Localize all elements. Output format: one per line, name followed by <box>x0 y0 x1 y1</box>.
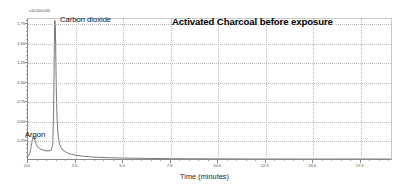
x-axis-minor-tick <box>56 160 57 161</box>
annotation-argon: Argon <box>25 130 45 139</box>
x-axis-title: Time (minutes) <box>0 172 409 181</box>
x-axis-minor-tick <box>151 160 152 161</box>
gridline-vertical <box>361 19 362 159</box>
x-axis-minor-tick <box>37 160 38 161</box>
x-axis-minor-tick <box>341 160 342 161</box>
chromatogram-trace <box>28 19 392 160</box>
x-axis-minor-tick <box>113 160 114 161</box>
x-axis-minor-tick <box>141 160 142 161</box>
x-axis-tick-label: 12.5 <box>261 163 269 168</box>
gridline-vertical <box>266 19 267 159</box>
gridline-vertical <box>171 19 172 159</box>
x-axis-minor-tick <box>255 160 256 161</box>
y-axis-offset-notation: x10,000,000 <box>29 8 50 13</box>
x-axis-minor-tick <box>84 160 85 161</box>
x-axis-tick-label: 10.0 <box>213 163 221 168</box>
x-axis-tick-label: 5.0 <box>119 163 125 168</box>
chromatogram-figure: x10,000,000 0.250.500.751.001.251.501.75… <box>0 0 409 189</box>
x-axis-minor-tick <box>236 160 237 161</box>
gridline-vertical <box>76 19 77 159</box>
x-axis-tick-label: 7.5 <box>167 163 173 168</box>
x-axis-tick-label: 2.5 <box>72 163 78 168</box>
x-axis-minor-tick <box>331 160 332 161</box>
x-axis-minor-tick <box>303 160 304 161</box>
x-axis-minor-tick <box>65 160 66 161</box>
plot-area <box>27 18 392 160</box>
x-axis-minor-tick <box>160 160 161 161</box>
x-axis-minor-tick <box>284 160 285 161</box>
x-axis-tick-label: 15.0 <box>308 163 316 168</box>
x-axis-minor-tick <box>293 160 294 161</box>
x-axis-minor-tick <box>94 160 95 161</box>
gridline-vertical <box>313 19 314 159</box>
gridline-horizontal <box>28 63 391 64</box>
x-axis-minor-tick <box>350 160 351 161</box>
chart-title: Activated Charcoal before exposure <box>172 16 333 27</box>
x-axis-minor-tick <box>274 160 275 161</box>
x-axis-minor-tick <box>46 160 47 161</box>
x-axis-minor-tick <box>179 160 180 161</box>
gridline-horizontal <box>28 83 391 84</box>
x-axis-tick-labels: 0.02.55.07.510.012.515.017.5 <box>27 163 392 172</box>
gridline-horizontal <box>28 141 391 142</box>
x-axis-minor-tick <box>322 160 323 161</box>
x-axis-minor-tick <box>369 160 370 161</box>
y-axis-tick-labels: 0.250.500.751.001.251.501.75 <box>0 18 25 160</box>
x-axis-minor-tick <box>198 160 199 161</box>
annotation-carbon-dioxide: Carbon dioxide <box>60 15 111 24</box>
gridline-vertical <box>218 19 219 159</box>
x-axis-minor-tick <box>208 160 209 161</box>
x-axis-minor-tick <box>227 160 228 161</box>
x-axis-tick-label: 0.0 <box>24 163 30 168</box>
x-axis-tick-label: 17.5 <box>356 163 364 168</box>
x-axis-minor-tick <box>388 160 389 161</box>
gridline-vertical <box>123 19 124 159</box>
gridline-horizontal <box>28 102 391 103</box>
x-axis-minor-tick <box>246 160 247 161</box>
x-axis-minor-tick <box>189 160 190 161</box>
x-axis-minor-tick <box>103 160 104 161</box>
x-axis-minor-tick <box>379 160 380 161</box>
x-axis-minor-tick <box>132 160 133 161</box>
gridline-horizontal <box>28 122 391 123</box>
gridline-horizontal <box>28 44 391 45</box>
